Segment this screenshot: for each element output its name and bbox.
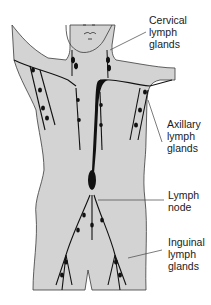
label-cervical-lymph-glands: Cervical lymph glands — [149, 14, 187, 50]
label-line: Inguinal — [168, 236, 205, 248]
label-inguinal-lymph-glands: Inguinal lymph glands — [168, 236, 205, 272]
lymph-node-cisterna — [88, 170, 96, 190]
label-line: Cervical — [149, 14, 187, 26]
label-line: glands — [167, 142, 201, 154]
label-line: Lymph — [168, 189, 199, 201]
label-axillary-lymph-glands: Axillary lymph glands — [167, 118, 201, 154]
label-line: glands — [168, 260, 205, 272]
label-line: lymph — [149, 26, 187, 38]
label-lymph-node: Lymph node — [168, 189, 199, 213]
label-line: glands — [149, 38, 187, 50]
label-line: lymph — [167, 130, 201, 142]
label-line: lymph — [168, 248, 205, 260]
lymphatic-diagram: Cervical lymph glands Axillary lymph gla… — [0, 0, 211, 305]
label-line: node — [168, 201, 199, 213]
label-line: Axillary — [167, 118, 201, 130]
